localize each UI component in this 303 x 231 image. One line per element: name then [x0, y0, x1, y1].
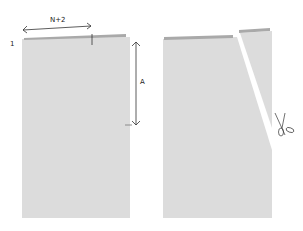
height-label: A — [140, 78, 145, 86]
knitting-diagram: N+2 1 A — [0, 0, 303, 231]
scissors-icon — [275, 113, 295, 136]
left-panel: N+2 1 A — [10, 16, 145, 218]
width-arrow — [23, 23, 91, 33]
right-panel — [163, 28, 295, 218]
row-label: 1 — [10, 40, 14, 48]
width-label: N+2 — [50, 16, 66, 24]
left-fabric — [22, 37, 130, 218]
height-arrow — [132, 42, 140, 125]
